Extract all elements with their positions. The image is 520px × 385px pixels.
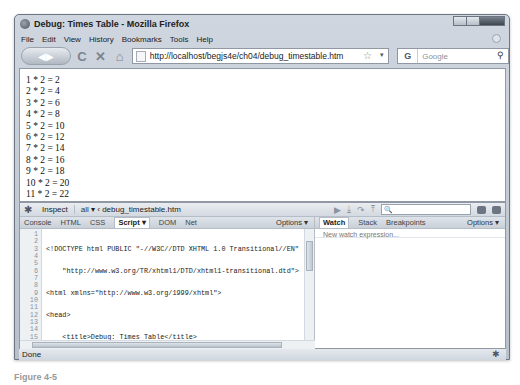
line-number-gutter[interactable]: 1 2 3 4 5 6 7 8 9 10 11 12 13 14 <box>20 229 42 347</box>
tab-watch[interactable]: Watch <box>319 217 349 228</box>
menu-edit[interactable]: Edit <box>42 35 56 44</box>
tab-script-label: Script <box>118 218 139 227</box>
detach-window-button[interactable] <box>477 206 486 214</box>
tab-breakpoints[interactable]: Breakpoints <box>386 218 426 227</box>
vertical-scroll-thumb[interactable] <box>306 241 313 271</box>
code-view: 1 2 3 4 5 6 7 8 9 10 11 12 13 14 <box>20 229 314 347</box>
output-line: 3 * 2 = 6 <box>26 98 505 109</box>
close-button[interactable] <box>479 16 505 26</box>
output-line: 5 * 2 = 10 <box>26 121 505 132</box>
step-over-icon[interactable]: ↷ <box>357 205 365 215</box>
menu-bookmarks[interactable]: Bookmarks <box>122 35 162 44</box>
window-controls <box>453 16 505 26</box>
title-bar: Debug: Times Table - Mozilla Firefox <box>15 15 509 33</box>
bookmark-star-icon[interactable]: ☆ <box>363 50 372 61</box>
output-line: 11 * 2 = 22 <box>26 189 505 200</box>
output-line: 2 * 2 = 4 <box>26 86 505 97</box>
status-bar: Done ✱ <box>19 349 506 360</box>
stop-icon[interactable]: ✕ <box>93 49 109 64</box>
firebug-panel: ✱ Inspect all ▾ ‹ debug_timestable.htm ▶… <box>19 202 506 349</box>
menu-history[interactable]: History <box>89 35 114 44</box>
firebug-icon[interactable]: ✱ <box>24 204 36 215</box>
tab-stack[interactable]: Stack <box>358 218 377 227</box>
output-line: 10 * 2 = 20 <box>26 178 505 189</box>
tab-html[interactable]: HTML <box>61 218 81 227</box>
code-line: <head> <box>46 312 304 319</box>
debug-controls: ▶ ⤓ ↷ ⤒ 🔍 <box>334 204 501 215</box>
script-source-panel: 1 2 3 4 5 6 7 8 9 10 11 12 13 14 <box>20 229 315 349</box>
firebug-search-input[interactable]: 🔍 <box>381 204 471 215</box>
watch-list: New watch expression... <box>315 229 505 349</box>
window-title: Debug: Times Table - Mozilla Firefox <box>34 19 189 29</box>
vertical-scrollbar[interactable] <box>304 229 314 347</box>
menu-file[interactable]: File <box>21 35 34 44</box>
firebug-toolbar: ✱ Inspect all ▾ ‹ debug_timestable.htm ▶… <box>20 203 505 217</box>
search-icon[interactable]: ⚲ <box>497 50 504 60</box>
url-text[interactable]: http://localhost/begjs4e/ch04/debug_time… <box>150 51 344 61</box>
new-watch-expression-input[interactable]: New watch expression... <box>315 229 505 238</box>
navigation-toolbar: ◀ ▶ C ✕ ⌂ http://localhost/begjs4e/ch04/… <box>15 45 509 67</box>
tab-dom[interactable]: DOM <box>159 218 177 227</box>
firebug-status-icon[interactable]: ✱ <box>492 349 500 360</box>
status-text: Done <box>22 350 41 359</box>
menu-view[interactable]: View <box>64 35 81 44</box>
tab-css[interactable]: CSS <box>90 218 105 227</box>
throbber-icon <box>492 34 501 43</box>
output-line: 6 * 2 = 12 <box>26 132 505 143</box>
maximize-button[interactable] <box>466 16 480 26</box>
side-tabs: Watch Stack Breakpoints Options ▾ <box>315 217 505 229</box>
browser-window: Debug: Times Table - Mozilla Firefox Fil… <box>14 14 510 360</box>
back-forward-buttons[interactable]: ◀ ▶ <box>21 47 71 65</box>
script-file-name[interactable]: debug_timestable.htm <box>102 205 181 214</box>
options-label: Options <box>276 218 302 227</box>
script-panel: Console HTML CSS Script ▾ DOM Net Option… <box>20 217 315 229</box>
output-line: 9 * 2 = 18 <box>26 166 505 177</box>
page-icon <box>136 51 146 62</box>
output-line: 7 * 2 = 14 <box>26 143 505 154</box>
firefox-icon <box>20 19 30 29</box>
tab-console[interactable]: Console <box>24 218 52 227</box>
output-line: 8 * 2 = 16 <box>26 155 505 166</box>
output-line: 4 * 2 = 8 <box>26 109 505 120</box>
options-menu[interactable]: Options ▾ <box>276 218 308 227</box>
continue-icon[interactable]: ▶ <box>334 205 341 215</box>
chevron-down-icon: ▾ ‹ <box>91 205 102 214</box>
code-line: <!DOCTYPE html PUBLIC "-//W3C//DTD XHTML… <box>46 246 304 253</box>
horizontal-scrollbar[interactable] <box>20 340 315 349</box>
search-bar[interactable]: G Google ⚲ <box>397 48 509 64</box>
close-firebug-button[interactable] <box>492 206 501 214</box>
code-line: <html xmlns="http://www.w3.org/1999/xhtm… <box>46 290 304 297</box>
forward-arrow-icon[interactable]: ▶ <box>46 51 54 62</box>
tab-script[interactable]: Script ▾ <box>114 217 149 228</box>
tab-net[interactable]: Net <box>185 218 197 227</box>
search-input[interactable]: Google <box>418 52 448 61</box>
filter-dropdown[interactable]: all <box>81 205 89 214</box>
side-options-menu[interactable]: Options ▾ <box>467 218 499 227</box>
side-options-label: Options <box>467 218 493 227</box>
menu-bar: File Edit View History Bookmarks Tools H… <box>15 33 509 45</box>
file-selector[interactable]: all ▾ ‹ debug_timestable.htm <box>75 205 181 214</box>
firebug-body: 1 2 3 4 5 6 7 8 9 10 11 12 13 14 <box>20 229 505 349</box>
url-dropdown-icon[interactable]: ▾ <box>380 51 384 59</box>
page-content: 1 * 2 = 2 2 * 2 = 4 3 * 2 = 6 4 * 2 = 8 … <box>19 68 506 202</box>
inspect-button[interactable]: Inspect <box>36 205 75 214</box>
source-code: <!DOCTYPE html PUBLIC "-//W3C//DTD XHTML… <box>42 229 304 347</box>
reload-icon[interactable]: C <box>74 49 90 64</box>
search-engine-icon[interactable]: G <box>398 49 418 63</box>
step-into-icon[interactable]: ⤓ <box>347 204 351 215</box>
step-out-icon[interactable]: ⤒ <box>371 204 375 215</box>
output-line: 1 * 2 = 2 <box>26 75 505 86</box>
home-icon[interactable]: ⌂ <box>112 49 128 64</box>
menu-help[interactable]: Help <box>196 35 212 44</box>
horizontal-scroll-thumb[interactable] <box>32 342 282 348</box>
watch-side-panel: Watch Stack Breakpoints Options ▾ <box>315 217 505 229</box>
back-arrow-icon[interactable]: ◀ <box>38 51 46 62</box>
figure-caption: Figure 4-5 <box>14 372 57 382</box>
minimize-button[interactable] <box>453 16 467 26</box>
menu-tools[interactable]: Tools <box>170 35 189 44</box>
firebug-tabs: Console HTML CSS Script ▾ DOM Net Option… <box>20 217 314 229</box>
code-line: "http://www.w3.org/TR/xhtml1/DTD/xhtml1-… <box>46 268 304 275</box>
url-bar[interactable]: http://localhost/begjs4e/ch04/debug_time… <box>132 48 389 64</box>
firebug-tabs-row: Console HTML CSS Script ▾ DOM Net Option… <box>20 217 505 229</box>
